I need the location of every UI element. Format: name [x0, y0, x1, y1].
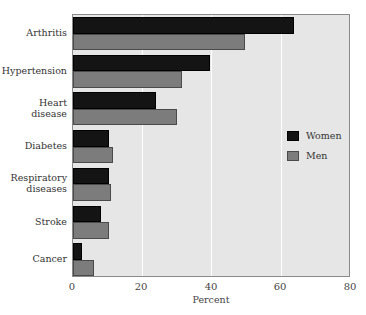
- legend-swatch-women: [287, 131, 299, 141]
- x-tick-80: 80: [344, 281, 357, 292]
- legend-swatch-men: [287, 151, 299, 161]
- category-label-line: diseases: [11, 183, 67, 194]
- bar-women-arthritis: [73, 17, 294, 34]
- x-tick-0: 0: [69, 281, 75, 292]
- bar-men-respiratory-diseases: [73, 184, 111, 201]
- category-label-line: Cancer: [32, 253, 67, 264]
- x-axis-label: Percent: [192, 294, 229, 305]
- category-label: Arthritis: [26, 27, 67, 38]
- bar-men-arthritis: [73, 34, 245, 51]
- category-label-line: Diabetes: [25, 140, 67, 151]
- category-label: Heartdisease: [31, 97, 67, 119]
- category-label: Stroke: [35, 216, 67, 227]
- bar-women-diabetes: [73, 130, 109, 147]
- category-label-line: Stroke: [35, 216, 67, 227]
- bar-men-heart-disease: [73, 109, 177, 126]
- category-label-line: Respiratory: [11, 172, 67, 183]
- plot-area: [72, 14, 350, 277]
- bar-men-hypertension: [73, 71, 182, 88]
- bar-women-hypertension: [73, 55, 210, 72]
- category-label: Diabetes: [25, 140, 67, 151]
- category-label: Respiratorydiseases: [11, 172, 67, 194]
- bar-women-heart-disease: [73, 92, 156, 109]
- category-label-line: Arthritis: [26, 27, 67, 38]
- gridline-40: [211, 15, 212, 276]
- bar-men-cancer: [73, 260, 94, 277]
- legend-label-women: Women: [306, 130, 342, 141]
- category-label-line: disease: [31, 108, 67, 119]
- x-tick-60: 60: [274, 281, 287, 292]
- bar-men-diabetes: [73, 147, 113, 164]
- category-label-line: Heart: [31, 97, 67, 108]
- bar-women-respiratory-diseases: [73, 168, 109, 185]
- bar-men-stroke: [73, 222, 109, 239]
- category-label: Cancer: [32, 253, 67, 264]
- legend-label-men: Men: [306, 150, 327, 161]
- bar-women-cancer: [73, 243, 82, 260]
- x-tick-40: 40: [205, 281, 218, 292]
- category-label: Hypertension: [2, 65, 67, 76]
- x-tick-20: 20: [135, 281, 148, 292]
- category-label-line: Hypertension: [2, 65, 67, 76]
- bar-women-stroke: [73, 206, 101, 223]
- gridline-60: [281, 15, 282, 276]
